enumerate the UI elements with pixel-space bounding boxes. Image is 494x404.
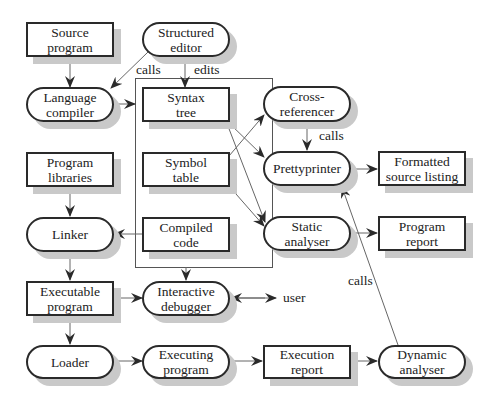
linker-label: Linker — [52, 227, 88, 242]
user-label: user — [283, 290, 306, 306]
executing-program-label: Executing program — [159, 347, 214, 377]
cross-referencer-node: Cross- referencer — [263, 86, 351, 122]
syntax-tree-label: Syntax tree — [167, 90, 205, 120]
executable-program-label: Executable program — [40, 284, 100, 314]
formatted-source-listing-node: Formatted source listing — [378, 151, 466, 186]
interactive-debugger-label: Interactive debugger — [157, 284, 215, 314]
program-report-node: Program report — [378, 216, 466, 251]
syntax-tree-node: Syntax tree — [142, 87, 230, 122]
symbol-table-label: Symbol table — [165, 155, 207, 185]
structured-editor-node: Structured editor — [142, 22, 230, 57]
static-analyser-node: Static analyser — [263, 216, 351, 251]
loader-label: Loader — [51, 355, 89, 370]
prettyprinter-node: Prettyprinter — [263, 151, 351, 186]
compiled-code-label: Compiled code — [159, 220, 212, 250]
execution-report-label: Execution report — [280, 347, 335, 377]
dynamic-analyser-node: Dynamic analyser — [378, 345, 466, 379]
execution-report-node: Execution report — [263, 345, 351, 379]
edge-label-calls-xref: calls — [319, 128, 344, 144]
program-libraries-node: Program libraries — [26, 152, 114, 187]
executable-program-node: Executable program — [26, 281, 114, 316]
cross-referencer-label: Cross- referencer — [280, 89, 335, 119]
loader-node: Loader — [26, 345, 114, 379]
structured-editor-label: Structured editor — [158, 25, 214, 55]
interactive-debugger-node: Interactive debugger — [142, 281, 230, 316]
edge-label-calls-dynamic: calls — [348, 273, 373, 289]
dynamic-analyser-label: Dynamic analyser — [397, 347, 447, 377]
linker-node: Linker — [26, 217, 114, 252]
static-analyser-label: Static analyser — [285, 219, 330, 249]
language-compiler-node: Language compiler — [26, 87, 114, 122]
compiled-code-node: Compiled code — [142, 217, 230, 252]
edge-label-edits: edits — [194, 62, 220, 78]
symbol-table-node: Symbol table — [142, 152, 230, 187]
executing-program-node: Executing program — [142, 345, 230, 379]
source-program-label: Source program — [47, 25, 93, 55]
source-program-node: Source program — [26, 22, 114, 57]
formatted-source-listing-label: Formatted source listing — [386, 154, 458, 184]
prettyprinter-label: Prettyprinter — [273, 161, 341, 176]
edge-label-calls-editor: calls — [136, 62, 161, 78]
program-report-label: Program report — [399, 219, 446, 249]
language-compiler-label: Language compiler — [43, 90, 96, 120]
program-libraries-label: Program libraries — [47, 155, 94, 185]
diagram-connectors — [0, 0, 494, 404]
